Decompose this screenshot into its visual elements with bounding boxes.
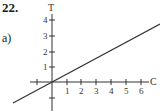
x-tick-label: 4 — [109, 86, 114, 96]
chart: 1 2 3 4 5 6 1 2 3 4 T C — [0, 0, 160, 111]
x-tick-label: 2 — [79, 86, 84, 96]
y-tick-label: 1 — [43, 62, 48, 72]
data-line — [13, 24, 160, 103]
x-tick-label: 3 — [94, 86, 99, 96]
x-tick-label: 5 — [124, 86, 129, 96]
y-tick-label: 3 — [43, 31, 48, 41]
x-axis-label: C — [150, 76, 157, 87]
y-tick-label: 4 — [43, 15, 48, 25]
y-tick-label: 2 — [43, 47, 48, 57]
x-tick-label: 1 — [65, 86, 70, 96]
y-axis-label: T — [48, 2, 54, 13]
x-tick-label: 6 — [139, 86, 144, 96]
